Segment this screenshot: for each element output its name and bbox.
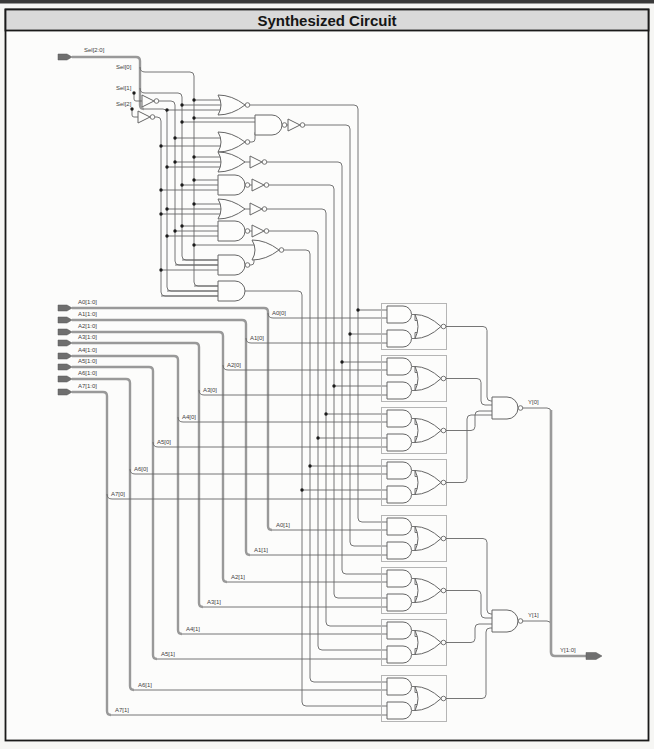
y0-label: Y[0] bbox=[528, 399, 539, 405]
inverter-bubble-icon bbox=[264, 229, 269, 234]
a2-bit0-label: A2[0] bbox=[227, 362, 241, 368]
inverter-bubble-icon bbox=[264, 183, 269, 188]
nand-gate-icon bbox=[218, 221, 245, 241]
a3-bit0-label: A3[0] bbox=[203, 387, 217, 393]
a1-bit1-label: A1[1] bbox=[254, 547, 268, 553]
page-title: Synthesized Circuit bbox=[257, 12, 396, 29]
a-bus-5-label: A5[1:0] bbox=[78, 358, 97, 364]
a-bus-1-label: A1[1:0] bbox=[78, 311, 97, 317]
sel-bus-label: Sel[2:0] bbox=[84, 47, 105, 53]
nand-gate-icon bbox=[218, 255, 245, 275]
nand-gate-icon bbox=[218, 175, 245, 195]
sel-bit-2-label: Sel[2] bbox=[116, 101, 132, 107]
inverter-bubble-icon bbox=[150, 115, 155, 120]
inverter-bubble-icon bbox=[282, 123, 287, 128]
a0-bit1-label: A0[1] bbox=[276, 522, 290, 528]
a-bus-0-label: A0[1:0] bbox=[78, 299, 97, 305]
schematic-canvas: Synthesized Circuit bbox=[0, 0, 654, 749]
inverter-bubble-icon bbox=[245, 263, 250, 268]
a-bus-4-label: A4[1:0] bbox=[78, 347, 97, 353]
inverter-bubble-icon bbox=[518, 619, 523, 624]
a-bus-3-label: A3[1:0] bbox=[78, 334, 97, 340]
a3-bit1-label: A3[1] bbox=[207, 599, 221, 605]
a1-bit0-label: A1[0] bbox=[250, 335, 264, 341]
frame: Synthesized Circuit bbox=[0, 0, 654, 749]
inverter-bubble-icon bbox=[279, 248, 284, 253]
inverter-bubble-icon bbox=[262, 160, 267, 165]
inverter-bubble-icon bbox=[245, 140, 250, 145]
and-gate-icon bbox=[218, 281, 245, 301]
a-bus-6-label: A6[1:0] bbox=[78, 370, 97, 376]
nand-gate-icon bbox=[255, 115, 282, 135]
y-bus-label: Y[1:0] bbox=[560, 647, 576, 653]
y1-label: Y[1] bbox=[528, 612, 539, 618]
a-bus-7-label: A7[1:0] bbox=[78, 383, 97, 389]
top-edge-strip bbox=[0, 0, 654, 4]
nand-gate-icon bbox=[492, 397, 518, 419]
a4-bit1-label: A4[1] bbox=[186, 626, 200, 632]
inverter-bubble-icon bbox=[154, 99, 159, 104]
a4-bit0-label: A4[0] bbox=[182, 414, 196, 420]
nand-gate-icon bbox=[492, 610, 518, 632]
a7-bit1-label: A7[1] bbox=[115, 707, 129, 713]
inverter-bubble-icon bbox=[245, 103, 250, 108]
a0-bit0-label: A0[0] bbox=[272, 310, 286, 316]
inverter-bubble-icon bbox=[300, 123, 305, 128]
synthesized-circuit-window: Synthesized Circuit bbox=[0, 0, 654, 749]
inverter-bubble-icon bbox=[245, 183, 250, 188]
a5-bit0-label: A5[0] bbox=[157, 439, 171, 445]
a5-bit1-label: A5[1] bbox=[161, 651, 175, 657]
sel-bit-0-label: Sel[0] bbox=[116, 64, 132, 70]
sel-bit-1-label: Sel[1] bbox=[116, 85, 132, 91]
a6-bit1-label: A6[1] bbox=[138, 682, 152, 688]
inverter-bubble-icon bbox=[518, 406, 523, 411]
inverter-bubble-icon bbox=[262, 207, 267, 212]
a2-bit1-label: A2[1] bbox=[231, 574, 245, 580]
a6-bit0-label: A6[0] bbox=[134, 466, 148, 472]
inverter-bubble-icon bbox=[245, 229, 250, 234]
a7-bit0-label: A7[0] bbox=[111, 491, 125, 497]
a-bus-2-label: A2[1:0] bbox=[78, 323, 97, 329]
